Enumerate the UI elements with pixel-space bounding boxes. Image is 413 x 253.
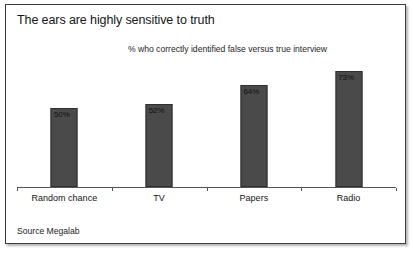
bar-value-label: 73% — [338, 74, 354, 82]
bar: 52% — [146, 104, 173, 187]
x-axis-label: Random chance — [17, 193, 112, 203]
axis-tick — [396, 188, 397, 191]
axis-tick — [17, 188, 18, 191]
bar-slot: 50% — [17, 60, 112, 187]
axis-tick — [207, 188, 208, 191]
chart-subtitle: % who correctly identified false versus … — [6, 44, 405, 54]
chart-figure: The ears are highly sensitive to truth %… — [5, 4, 406, 244]
chart-title: The ears are highly sensitive to truth — [17, 13, 215, 27]
bar-slot: 64% — [207, 60, 302, 187]
bar: 64% — [240, 85, 267, 187]
bar-value-label: 64% — [243, 88, 259, 96]
bar-slot: 52% — [112, 60, 207, 187]
x-axis-labels: Random chanceTVPapersRadio — [17, 193, 396, 207]
x-axis-label: Papers — [207, 193, 302, 203]
bar: 73% — [335, 71, 362, 187]
bar: 50% — [51, 108, 78, 187]
plot-area: 50%52%64%73% — [17, 60, 396, 187]
axis-tick — [301, 188, 302, 191]
bar-slot: 73% — [301, 60, 396, 187]
bar-value-label: 50% — [54, 111, 70, 119]
source-note: Source Megalab — [17, 226, 80, 236]
x-axis-label: TV — [112, 193, 207, 203]
bar-value-label: 52% — [149, 107, 165, 115]
x-axis-label: Radio — [301, 193, 396, 203]
axis-tick — [112, 188, 113, 191]
